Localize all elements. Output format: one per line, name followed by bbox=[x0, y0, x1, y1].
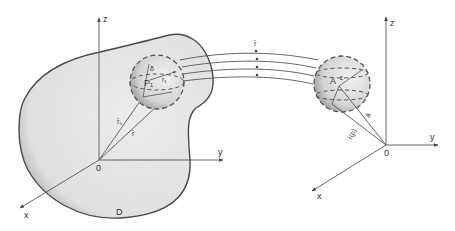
sphere-radius-label-epsilon: ε bbox=[340, 74, 343, 81]
sphere-center-label-p1: P₁ bbox=[144, 78, 153, 88]
right-x-label: x bbox=[317, 191, 322, 201]
left-sphere bbox=[130, 55, 184, 109]
left-frame: z y x 0 D P₁ δ r₁ r̄₀ r̄ bbox=[19, 14, 223, 220]
right-sphere bbox=[314, 56, 370, 112]
vector-rp-label: r̄(p) bbox=[346, 128, 358, 141]
vector-r0-label: r̄₀ bbox=[117, 118, 123, 125]
right-y-label: y bbox=[430, 132, 435, 142]
vector-a-label: ā bbox=[364, 112, 372, 119]
right-x-axis bbox=[312, 145, 386, 191]
vector-rp bbox=[332, 104, 386, 145]
right-frame: z y x 0 A ε ā r̄(p) bbox=[312, 17, 438, 201]
sphere-inner-vector-label: r₁ bbox=[162, 76, 167, 83]
right-origin-label: 0 bbox=[384, 148, 389, 158]
left-y-label: y bbox=[218, 147, 223, 157]
region-label-d: D bbox=[116, 207, 123, 217]
left-z-label: z bbox=[103, 14, 108, 24]
field-line-label-r: r̄ bbox=[254, 40, 257, 47]
left-origin-label: 0 bbox=[96, 163, 101, 173]
diagram-canvas: z y x 0 D P₁ δ r₁ r̄₀ r̄ r̄ bbox=[0, 0, 455, 231]
left-x-label: x bbox=[24, 210, 29, 220]
sphere-radius-label-delta: δ bbox=[150, 65, 154, 72]
sphere-center-label-a: A bbox=[330, 76, 336, 86]
right-z-label: z bbox=[390, 18, 395, 28]
